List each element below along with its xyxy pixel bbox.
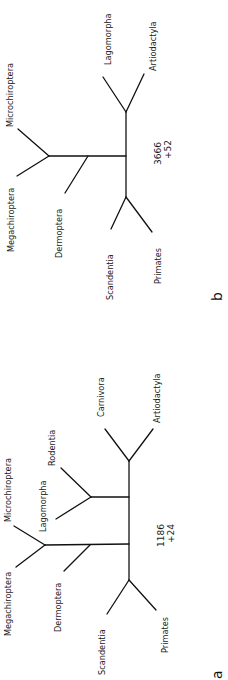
branch-a-scandentia xyxy=(107,580,129,614)
tree-score: 1186 xyxy=(156,524,166,547)
branch-a-lagomorpha xyxy=(56,497,91,519)
taxon-label: Megachiroptera xyxy=(3,572,13,636)
tree-score: 3666 xyxy=(153,142,163,165)
branch-a-primates xyxy=(129,580,156,610)
taxon-label: Primates xyxy=(153,248,163,284)
tree-score-delta: +52 xyxy=(163,140,173,159)
taxon-label: Rodentia xyxy=(47,430,57,466)
branch-a-megachiroptera xyxy=(16,545,45,567)
taxon-label: Scandentia xyxy=(97,629,107,675)
taxon-label: Dermoptera xyxy=(53,583,63,632)
branch-a-artiodactyla xyxy=(129,429,153,461)
branch-b-megachiroptera xyxy=(17,156,49,176)
branch-b-dermoptera xyxy=(65,156,88,193)
taxon-label: Microchiroptera xyxy=(5,63,15,127)
taxon-label: Dermoptera xyxy=(54,209,64,258)
branch-b-artiodactyla xyxy=(126,74,144,112)
branch-a-carnivora xyxy=(105,429,129,461)
taxon-label: Megachiroptera xyxy=(6,188,16,252)
branch-b-primates xyxy=(126,197,152,232)
tree-panel-b: Lagomorpha Artiodactyla Microchiroptera … xyxy=(5,13,225,301)
taxon-label: Scandentia xyxy=(105,254,115,300)
branch-b-scandentia xyxy=(111,197,126,229)
taxon-label: Lagomorpha xyxy=(103,13,113,65)
taxon-label: Primates xyxy=(160,617,170,653)
taxon-label: Carnivora xyxy=(96,377,106,417)
branch-a-chiroptera-stem xyxy=(45,544,129,545)
taxon-label: Microchiroptera xyxy=(3,458,13,522)
branch-b-lagomorpha xyxy=(103,77,126,112)
tree-panel-a: Carnivora Artiodactyla Rodentia Lagomorp… xyxy=(3,373,225,679)
branch-b-microchiroptera xyxy=(18,129,49,156)
panel-label-b: b xyxy=(209,292,225,301)
tree-score-delta: +24 xyxy=(166,524,176,543)
branch-a-dermoptera xyxy=(64,545,90,571)
taxon-label: Artiodactyla xyxy=(152,373,162,423)
panel-label-a: a xyxy=(209,670,225,679)
taxon-label: Artiodactyla xyxy=(148,21,158,71)
branch-a-rodentia xyxy=(61,468,91,497)
taxon-label: Lagomorpha xyxy=(38,480,48,532)
phylogeny-figure: Lagomorpha Artiodactyla Microchiroptera … xyxy=(0,0,228,680)
